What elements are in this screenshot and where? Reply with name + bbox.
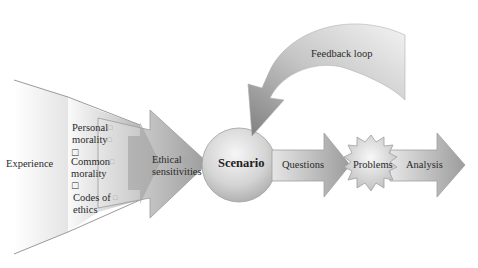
label-analysis: Analysis bbox=[406, 159, 443, 171]
placeholder-glyph: □ bbox=[108, 136, 112, 144]
placeholder-glyph: □ bbox=[113, 194, 117, 202]
label-problems: Problems bbox=[353, 159, 393, 171]
personal-line2: morality bbox=[72, 134, 108, 145]
label-experience: Experience bbox=[6, 158, 53, 170]
label-codes-of-ethics: Codes of □ ethics bbox=[73, 192, 125, 216]
label-questions: Questions bbox=[282, 159, 324, 171]
common-line2: morality bbox=[71, 168, 107, 179]
ethical-line2: sensitivities bbox=[152, 166, 202, 177]
label-common-morality: Common□ morality bbox=[71, 156, 123, 180]
label-personal-morality: Personal□ morality□ bbox=[72, 122, 122, 146]
placeholder-glyph: □ bbox=[110, 158, 114, 166]
ethical-line1: Ethical bbox=[152, 154, 182, 165]
placeholder-glyph: □ bbox=[108, 124, 112, 132]
label-ethical-sensitivities: Ethical□ sensitivities bbox=[152, 154, 210, 178]
label-scenario: Scenario bbox=[218, 157, 265, 169]
codes-line2: ethics bbox=[73, 204, 98, 215]
feedback-loop-arrow bbox=[248, 24, 405, 136]
label-feedback-loop: Feedback loop bbox=[311, 48, 373, 60]
personal-line1: Personal bbox=[72, 122, 108, 133]
placeholder-glyph: □ bbox=[72, 180, 78, 192]
codes-line1: Codes of bbox=[73, 192, 111, 203]
placeholder-glyph: □ bbox=[182, 156, 186, 164]
common-line1: Common bbox=[71, 156, 110, 167]
